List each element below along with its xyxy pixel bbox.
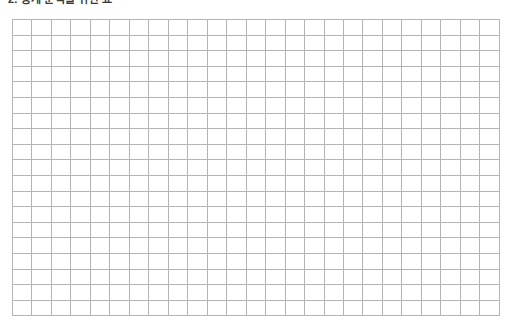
table-cell[interactable] <box>305 175 324 191</box>
table-cell[interactable] <box>305 113 324 129</box>
table-cell[interactable] <box>421 97 440 113</box>
table-cell[interactable] <box>305 269 324 285</box>
table-cell[interactable] <box>382 253 401 269</box>
table-cell[interactable] <box>149 20 168 36</box>
table-cell[interactable] <box>343 129 362 145</box>
table-cell[interactable] <box>207 113 226 129</box>
table-cell[interactable] <box>188 191 207 207</box>
table-cell[interactable] <box>480 269 500 285</box>
table-cell[interactable] <box>188 82 207 98</box>
table-cell[interactable] <box>110 129 129 145</box>
table-cell[interactable] <box>246 129 265 145</box>
table-cell[interactable] <box>149 238 168 254</box>
table-cell[interactable] <box>51 66 70 82</box>
table-cell[interactable] <box>129 300 148 316</box>
table-cell[interactable] <box>71 160 90 176</box>
table-cell[interactable] <box>402 222 421 238</box>
table-cell[interactable] <box>246 253 265 269</box>
table-cell[interactable] <box>110 82 129 98</box>
table-cell[interactable] <box>188 269 207 285</box>
table-cell[interactable] <box>110 285 129 301</box>
table-cell[interactable] <box>246 175 265 191</box>
table-cell[interactable] <box>71 82 90 98</box>
table-cell[interactable] <box>480 222 500 238</box>
table-cell[interactable] <box>441 160 460 176</box>
table-cell[interactable] <box>13 160 32 176</box>
table-cell[interactable] <box>90 207 109 223</box>
table-cell[interactable] <box>480 160 500 176</box>
table-cell[interactable] <box>227 253 246 269</box>
table-cell[interactable] <box>305 51 324 67</box>
table-cell[interactable] <box>129 97 148 113</box>
table-cell[interactable] <box>266 35 285 51</box>
table-cell[interactable] <box>188 66 207 82</box>
table-cell[interactable] <box>421 285 440 301</box>
table-cell[interactable] <box>207 97 226 113</box>
table-cell[interactable] <box>343 66 362 82</box>
table-cell[interactable] <box>441 129 460 145</box>
table-cell[interactable] <box>110 207 129 223</box>
table-cell[interactable] <box>110 191 129 207</box>
table-cell[interactable] <box>460 97 479 113</box>
table-cell[interactable] <box>149 191 168 207</box>
table-cell[interactable] <box>305 35 324 51</box>
table-cell[interactable] <box>382 300 401 316</box>
table-cell[interactable] <box>207 175 226 191</box>
table-cell[interactable] <box>188 222 207 238</box>
table-cell[interactable] <box>71 66 90 82</box>
table-cell[interactable] <box>363 144 382 160</box>
table-cell[interactable] <box>266 222 285 238</box>
table-cell[interactable] <box>402 51 421 67</box>
table-cell[interactable] <box>51 300 70 316</box>
table-cell[interactable] <box>90 253 109 269</box>
table-cell[interactable] <box>421 144 440 160</box>
table-cell[interactable] <box>32 144 51 160</box>
table-cell[interactable] <box>246 97 265 113</box>
table-cell[interactable] <box>246 66 265 82</box>
table-cell[interactable] <box>129 253 148 269</box>
table-cell[interactable] <box>324 300 343 316</box>
table-cell[interactable] <box>51 160 70 176</box>
table-cell[interactable] <box>324 191 343 207</box>
table-cell[interactable] <box>363 253 382 269</box>
table-cell[interactable] <box>129 238 148 254</box>
table-cell[interactable] <box>460 191 479 207</box>
table-cell[interactable] <box>168 285 187 301</box>
table-cell[interactable] <box>129 175 148 191</box>
table-cell[interactable] <box>460 269 479 285</box>
table-cell[interactable] <box>32 300 51 316</box>
table-cell[interactable] <box>71 253 90 269</box>
table-cell[interactable] <box>480 175 500 191</box>
table-cell[interactable] <box>13 20 32 36</box>
table-cell[interactable] <box>129 129 148 145</box>
table-cell[interactable] <box>324 35 343 51</box>
table-cell[interactable] <box>149 300 168 316</box>
table-cell[interactable] <box>382 113 401 129</box>
table-cell[interactable] <box>51 51 70 67</box>
table-cell[interactable] <box>149 175 168 191</box>
table-cell[interactable] <box>382 82 401 98</box>
table-cell[interactable] <box>71 175 90 191</box>
table-cell[interactable] <box>149 144 168 160</box>
table-cell[interactable] <box>441 207 460 223</box>
table-cell[interactable] <box>110 66 129 82</box>
table-cell[interactable] <box>71 285 90 301</box>
table-cell[interactable] <box>324 222 343 238</box>
table-cell[interactable] <box>188 97 207 113</box>
table-cell[interactable] <box>188 144 207 160</box>
table-cell[interactable] <box>305 253 324 269</box>
table-cell[interactable] <box>460 129 479 145</box>
table-cell[interactable] <box>441 175 460 191</box>
table-cell[interactable] <box>343 51 362 67</box>
table-cell[interactable] <box>149 222 168 238</box>
table-cell[interactable] <box>305 222 324 238</box>
table-cell[interactable] <box>51 129 70 145</box>
table-cell[interactable] <box>382 51 401 67</box>
table-cell[interactable] <box>382 160 401 176</box>
table-cell[interactable] <box>149 269 168 285</box>
table-cell[interactable] <box>110 51 129 67</box>
table-cell[interactable] <box>285 238 304 254</box>
table-cell[interactable] <box>90 35 109 51</box>
table-cell[interactable] <box>110 35 129 51</box>
table-cell[interactable] <box>266 144 285 160</box>
